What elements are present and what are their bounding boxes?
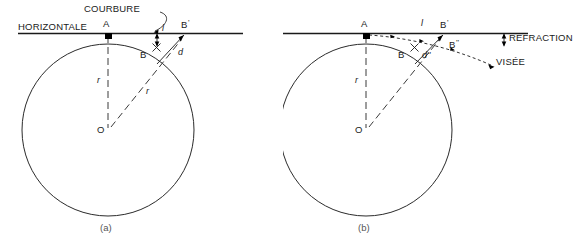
svg-text:'': '' xyxy=(456,38,460,47)
label-courbure-a: COURBURE xyxy=(84,3,140,14)
label-point-b-a: B xyxy=(140,49,146,60)
caption-panel-b: (b) xyxy=(358,222,370,233)
point-marker-a xyxy=(105,33,112,39)
svg-text:B: B xyxy=(181,19,187,30)
arrowhead-visee-b xyxy=(488,64,494,69)
label-radius-vertical-a: r xyxy=(97,75,101,85)
label-point-b-b: B xyxy=(398,49,404,60)
courbure-leader-a xyxy=(155,12,167,31)
svg-text:B: B xyxy=(440,19,446,30)
label-point-bprime-b: B ' xyxy=(440,18,449,30)
label-radius-oblique-a: r xyxy=(146,86,150,96)
label-point-o-b: O xyxy=(355,124,362,135)
sight-line-visee-b xyxy=(369,35,493,66)
label-point-bprime-a: B ' xyxy=(181,18,190,30)
label-segment-d-a: d xyxy=(178,47,184,57)
label-segment-dsecond-b: d'' xyxy=(422,50,431,60)
caption-panel-a: (a) xyxy=(100,222,112,233)
label-point-a-b: A xyxy=(361,18,368,29)
figure-root: HORIZONTALE COURBURE A B B ' l d r r O (… xyxy=(0,0,573,250)
label-point-o-a: O xyxy=(97,124,104,135)
panel-b-refraction-diagram: A l B ' B '' B d'' RÉFRACTION VISÉE r O … xyxy=(283,0,573,250)
point-marker-a-b xyxy=(363,33,370,39)
label-radius-vertical-b: r xyxy=(355,75,359,85)
label-point-bsecond-b: B '' xyxy=(449,38,460,50)
earth-circle-b xyxy=(283,44,452,216)
label-horizontale-a: HORIZONTALE xyxy=(18,21,87,32)
label-point-a-a: A xyxy=(103,18,110,29)
svg-text:': ' xyxy=(188,18,190,27)
label-visee-b: VISÉE xyxy=(496,56,525,67)
refraction-gap-arrow-b xyxy=(502,33,507,47)
label-refraction-b: RÉFRACTION xyxy=(509,32,573,43)
svg-text:': ' xyxy=(447,18,449,27)
label-segment-l-b: l xyxy=(421,18,424,28)
panel-a-curvature-diagram: HORIZONTALE COURBURE A B B ' l d r r O (… xyxy=(0,0,290,250)
svg-text:B: B xyxy=(449,39,455,50)
point-marker-b-b xyxy=(411,44,419,52)
